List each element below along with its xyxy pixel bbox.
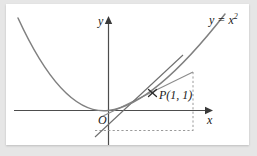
- function-label-base: y = x: [209, 13, 234, 27]
- function-label-exponent: 2: [234, 12, 238, 21]
- figure-root: y x O P(1, 1) y = x2: [0, 0, 257, 156]
- origin-label: O: [98, 114, 107, 126]
- x-axis-label: x: [207, 114, 212, 126]
- point-p-label: P(1, 1): [159, 89, 192, 101]
- y-axis-label: y: [98, 15, 103, 27]
- function-label: y = x2: [209, 14, 238, 26]
